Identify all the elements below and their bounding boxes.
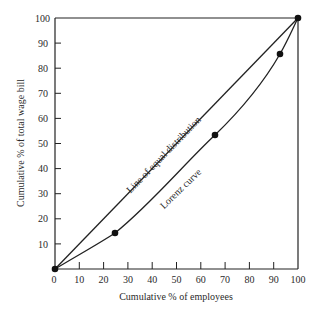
svg-text:0: 0 [52, 274, 57, 285]
x-ticks [79, 262, 273, 269]
lorenz-curve-label: Lorenz curve [158, 166, 204, 211]
marker-66-53 [212, 132, 219, 139]
marker-100-100 [295, 15, 302, 22]
svg-text:60: 60 [38, 113, 48, 124]
svg-text:70: 70 [38, 88, 48, 99]
y-axis-title: Cumulative % of total wage bill [15, 79, 26, 207]
svg-text:100: 100 [291, 274, 306, 285]
x-tick-labels: 0 10 20 30 40 50 60 70 80 90 100 [52, 274, 306, 285]
svg-text:90: 90 [38, 38, 48, 49]
y-tick-labels: 10 20 30 40 50 60 70 80 90 100 [35, 13, 50, 250]
svg-text:40: 40 [147, 274, 157, 285]
svg-text:20: 20 [99, 274, 109, 285]
svg-text:40: 40 [38, 163, 48, 174]
svg-text:10: 10 [38, 239, 48, 250]
svg-text:50: 50 [172, 274, 182, 285]
marker-92-86 [277, 51, 284, 58]
x-axis-title: Cumulative % of employees [119, 291, 233, 302]
svg-text:30: 30 [38, 188, 48, 199]
svg-text:30: 30 [123, 274, 133, 285]
marker-25-14 [112, 230, 119, 237]
svg-text:100: 100 [35, 13, 50, 24]
svg-text:80: 80 [244, 274, 254, 285]
svg-text:70: 70 [220, 274, 230, 285]
y-ticks [55, 43, 61, 244]
svg-text:90: 90 [269, 274, 279, 285]
svg-text:20: 20 [38, 213, 48, 224]
marker-0-0 [52, 266, 59, 273]
lorenz-chart: 10 20 30 40 50 60 70 80 90 100 0 10 20 3… [0, 0, 320, 313]
svg-text:10: 10 [74, 274, 84, 285]
svg-text:50: 50 [38, 138, 48, 149]
svg-text:60: 60 [196, 274, 206, 285]
svg-text:80: 80 [38, 63, 48, 74]
